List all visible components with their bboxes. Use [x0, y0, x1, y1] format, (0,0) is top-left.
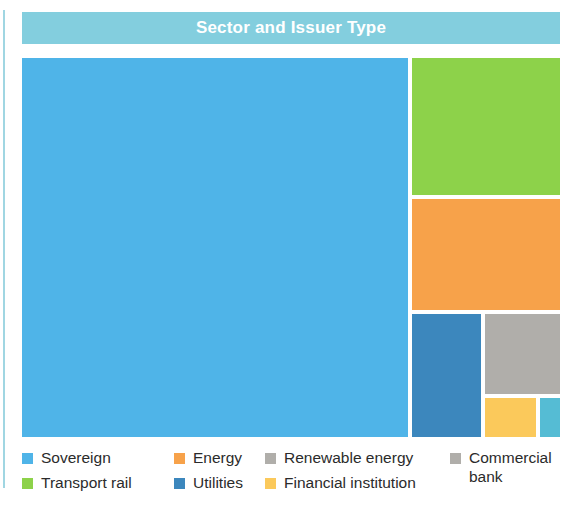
legend-item: Commercial bank	[450, 448, 552, 473]
sector-and-issuer-type-figure: Sector and Issuer Type SovereignTranspor…	[0, 0, 580, 507]
chart-title-bar: Sector and Issuer Type	[22, 12, 560, 44]
treemap-tile-renewable-energy	[485, 314, 560, 394]
page-margin-rule	[3, 10, 5, 488]
legend-swatch-energy	[174, 453, 185, 464]
legend-item-label: Energy	[193, 448, 242, 467]
legend-item: Energy	[174, 448, 243, 473]
legend-swatch-commercial-bank	[450, 453, 461, 464]
legend-swatch-financial-institution	[265, 478, 276, 489]
legend-item: Utilities	[174, 473, 243, 498]
legend-swatch-transport-rail	[22, 478, 33, 489]
treemap-tile-commercial-bank	[540, 398, 560, 437]
treemap-tile-transport-rail	[412, 58, 560, 195]
legend-item-label: Transport rail	[41, 473, 132, 492]
chart-legend: SovereignTransport railEnergyUtilitiesRe…	[22, 448, 574, 500]
legend-swatch-utilities	[174, 478, 185, 489]
treemap-plot-area	[22, 58, 560, 437]
legend-item-label: Renewable energy	[284, 448, 413, 467]
legend-item: Financial institution	[265, 473, 416, 498]
legend-column-2: EnergyUtilities	[174, 448, 243, 498]
legend-item: Renewable energy	[265, 448, 416, 473]
legend-column-3: Renewable energyFinancial institution	[265, 448, 416, 498]
treemap-tile-financial-institution	[485, 398, 536, 437]
legend-swatch-renewable-energy	[265, 453, 276, 464]
legend-item-label: Utilities	[193, 473, 243, 492]
page-title: Sector and Issuer Type	[196, 18, 386, 38]
legend-item: Sovereign	[22, 448, 132, 473]
treemap-tile-utilities	[412, 314, 481, 437]
legend-item-label: Sovereign	[41, 448, 111, 467]
legend-item-label: Commercial bank	[469, 448, 552, 486]
legend-item: Transport rail	[22, 473, 132, 498]
treemap-tile-sovereign	[22, 58, 408, 437]
legend-column-1: SovereignTransport rail	[22, 448, 132, 498]
treemap-tile-energy	[412, 199, 560, 310]
legend-swatch-sovereign	[22, 453, 33, 464]
legend-column-4: Commercial bank	[450, 448, 552, 473]
legend-item-label: Financial institution	[284, 473, 416, 492]
